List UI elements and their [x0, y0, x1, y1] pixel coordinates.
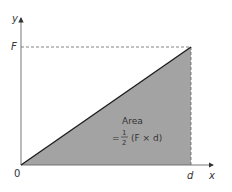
fraction-numerator: 1 [122, 129, 126, 137]
area-label: Area [122, 116, 143, 126]
y-axis-label: y [11, 13, 19, 24]
f-tick-label: F [11, 41, 17, 52]
area-equals: = [112, 133, 120, 143]
fraction-denominator: 2 [122, 139, 126, 147]
d-tick-label: d [187, 170, 194, 181]
origin-label: 0 [14, 168, 20, 179]
x-axis-label: x [208, 170, 215, 181]
diagram-canvas: y F 0 d x Area = 1 2 (F × d) [0, 0, 232, 192]
area-expression: (F × d) [131, 133, 162, 143]
